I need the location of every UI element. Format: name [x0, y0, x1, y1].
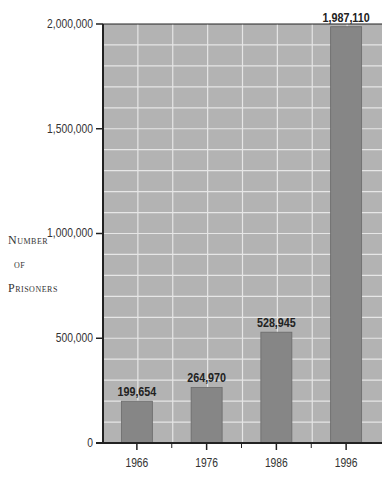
x-tick-label: 1976 [195, 456, 218, 469]
x-tick-label: 1996 [335, 456, 358, 469]
bar-1976 [191, 387, 222, 443]
x-tick-label: 1986 [265, 456, 288, 469]
bar-1996 [331, 27, 362, 443]
y-tick-label: 1,500,000 [47, 122, 93, 135]
y-tick-label: 2,000,000 [47, 17, 93, 30]
y-tick-label: 1,000,000 [47, 227, 93, 240]
bar-value-label: 528,945 [257, 315, 296, 329]
y-tick-label: 500,000 [56, 332, 93, 345]
bar-1966 [121, 401, 152, 443]
prisoners-bar-chart: 199,6541966264,9701976528,94519861,987,1… [0, 0, 391, 478]
bar-1986 [261, 332, 292, 443]
bar-value-label: 1,987,110 [323, 10, 370, 24]
y-tick-label: 0 [87, 436, 93, 449]
bar-value-label: 264,970 [187, 371, 226, 385]
x-tick-label: 1966 [125, 456, 148, 469]
bar-value-label: 199,654 [117, 384, 156, 398]
